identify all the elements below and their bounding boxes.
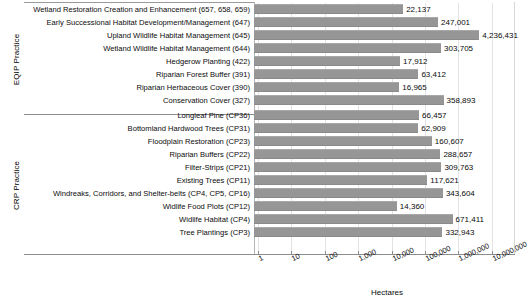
bar-row[interactable]: 4,236,431 (254, 29, 514, 42)
bar-row[interactable]: 66,457 (254, 109, 514, 122)
bar[interactable] (254, 136, 432, 146)
bar-value-label: 332,943 (445, 226, 474, 239)
bar[interactable] (254, 214, 453, 224)
bar-value-label: 309,763 (444, 161, 473, 174)
category-label: Riparian Buffers (CP22) (170, 148, 250, 161)
bar[interactable] (254, 123, 418, 133)
category-label: Floodplain Restoration (CP23) (148, 135, 250, 148)
bar[interactable] (254, 175, 427, 185)
bar-value-label: 62,909 (421, 122, 445, 135)
category-label: Longleaf Pine (CP36) (177, 109, 250, 122)
category-label: Riparian Forest Buffer (391) (156, 68, 250, 81)
bar-value-label: 66,457 (422, 109, 446, 122)
bar-value-label: 343,604 (446, 187, 475, 200)
category-label: Early Successional Habitat Development/M… (47, 16, 250, 29)
plot-area: 22,137247,0014,236,431303,70517,91263,41… (254, 3, 514, 253)
category-label-column: Wetland Restoration Creation and Enhance… (24, 3, 254, 253)
bar[interactable] (254, 43, 441, 53)
bar-value-label: 14,360 (400, 200, 424, 213)
category-label: Wetland Restoration Creation and Enhance… (33, 3, 250, 16)
bar-row[interactable]: 14,360 (254, 200, 514, 213)
category-label: Windreaks, Corridors, and Shelter-belts … (53, 187, 250, 200)
bar[interactable] (254, 4, 403, 14)
bar-value-label: 22,137 (406, 3, 430, 16)
bar[interactable] (254, 95, 444, 105)
bar-row[interactable]: 671,411 (254, 213, 514, 226)
group-caption-eqip: EQIP Practice (10, 6, 24, 112)
bar-row[interactable]: 16,965 (254, 81, 514, 94)
bar[interactable] (254, 69, 418, 79)
bar[interactable] (254, 162, 441, 172)
category-label: Wetland Wildlife Habitat Management (644… (103, 42, 250, 55)
bar-row[interactable]: 288,657 (254, 148, 514, 161)
bar[interactable] (254, 110, 419, 120)
bar-value-label: 288,657 (443, 148, 472, 161)
x-axis-title: Hectares (254, 288, 520, 297)
bar-row[interactable]: 332,943 (254, 226, 514, 239)
category-label: Bottomland Hardwood Trees (CP31) (128, 122, 250, 135)
bar[interactable] (254, 82, 399, 92)
bar-row[interactable]: 247,001 (254, 16, 514, 29)
category-label: Hedgerow Planting (422) (166, 55, 250, 68)
bar-value-label: 16,965 (402, 81, 426, 94)
category-label: Widlife Habitat (CP4) (179, 213, 250, 226)
category-label: Widlife Food Plots (CP12) (163, 200, 250, 213)
category-label: Conservation Cover (327) (163, 94, 250, 107)
group-caption-eqip-label: EQIP Practice (13, 33, 22, 84)
chart-container: EQIP Practice CRP Practice Wetland Resto… (0, 0, 528, 307)
category-label: Filter-Strips (CP21) (185, 161, 250, 174)
bar-row[interactable]: 303,705 (254, 42, 514, 55)
group-caption-crp: CRP Practice (10, 118, 24, 252)
bar-value-label: 117,621 (430, 174, 458, 187)
bar-row[interactable]: 63,412 (254, 68, 514, 81)
bar-value-label: 358,893 (447, 94, 476, 107)
bar-value-label: 17,912 (403, 55, 427, 68)
bar-row[interactable]: 62,909 (254, 122, 514, 135)
bar[interactable] (254, 188, 443, 198)
bar-value-label: 160,607 (435, 135, 464, 148)
bar[interactable] (254, 227, 442, 237)
bar-value-label: 247,001 (441, 16, 470, 29)
category-label: Existing Trees (CP11) (177, 174, 250, 187)
bar-row[interactable]: 309,763 (254, 161, 514, 174)
group-caption-crp-label: CRP Practice (13, 160, 22, 209)
bar[interactable] (254, 30, 479, 40)
bar-row[interactable]: 117,621 (254, 174, 514, 187)
bar-row[interactable]: 17,912 (254, 55, 514, 68)
bar-row[interactable]: 22,137 (254, 3, 514, 16)
x-axis-tick-labels: 1101001,00010,000100,0001,000,00010,000,… (254, 255, 520, 289)
bar-row[interactable]: 358,893 (254, 94, 514, 107)
bar-row[interactable]: 160,607 (254, 135, 514, 148)
bar-value-label: 63,412 (421, 68, 445, 81)
category-label: Tree Plantings (CP3) (179, 226, 250, 239)
category-label: Upland Wildlife Habitat Management (645) (107, 29, 250, 42)
category-label: Riparian Herbaceous Cover (390) (136, 81, 250, 94)
bar-value-label: 671,411 (456, 213, 484, 226)
x-tick-label: 1 (257, 253, 265, 263)
bar-row[interactable]: 343,604 (254, 187, 514, 200)
bar[interactable] (254, 201, 397, 211)
bar-value-label: 303,705 (444, 42, 473, 55)
bar-value-label: 4,236,431 (482, 29, 518, 42)
bar[interactable] (254, 17, 438, 27)
bar[interactable] (254, 56, 400, 66)
bar[interactable] (254, 149, 440, 159)
